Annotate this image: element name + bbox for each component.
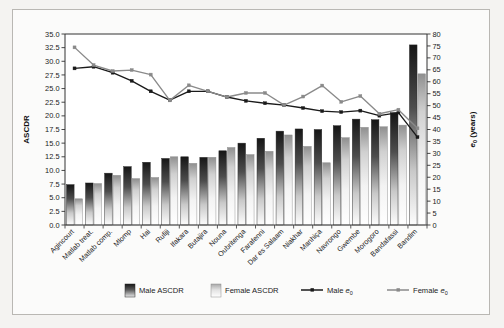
y-tick-label-right: 65	[433, 65, 441, 74]
legend-item: Male ASCDR	[125, 284, 184, 297]
y-tick-label-left: 22.5	[45, 98, 59, 107]
y-tick-label-left: 12.5	[45, 152, 59, 161]
data-point	[168, 99, 171, 102]
data-point	[321, 110, 324, 113]
data-point	[378, 112, 381, 115]
legend-label: Female e0	[413, 286, 448, 296]
data-point	[225, 96, 228, 99]
bar-female-ascdr	[75, 199, 83, 225]
y-tick-label-right: 30	[433, 149, 441, 158]
bar-male-ascdr	[314, 130, 322, 226]
bar-male-ascdr	[105, 173, 113, 225]
bar-female-ascdr	[361, 127, 369, 225]
y-tick-label-right: 0	[433, 221, 437, 230]
x-category-label: Mlomp	[111, 227, 133, 249]
data-point	[245, 91, 248, 94]
bar-male-ascdr	[257, 138, 265, 225]
y-tick-label-right: 70	[433, 53, 441, 62]
bar-male-ascdr	[352, 119, 360, 225]
data-point	[130, 69, 133, 72]
y-tick-label-right: 20	[433, 173, 441, 182]
bar-female-ascdr	[151, 178, 159, 225]
y-tick-label-left: 0.0	[49, 221, 59, 230]
data-point	[416, 127, 419, 130]
y-tick-label-right: 75	[433, 42, 441, 51]
legend-label: Male ASCDR	[139, 286, 184, 295]
bar-female-ascdr	[342, 138, 350, 225]
y-axis-title-left: ASCDR	[22, 115, 31, 144]
bar-male-ascdr	[276, 131, 284, 225]
legend-item: Female ASCDR	[211, 284, 279, 297]
y-tick-label-left: 17.5	[45, 125, 59, 134]
data-point	[302, 95, 305, 98]
bar-male-ascdr	[371, 120, 379, 225]
data-point	[130, 79, 133, 82]
y-tick-label-left: 25.0	[45, 84, 59, 93]
bar-female-ascdr	[285, 135, 293, 225]
bar-female-ascdr	[380, 127, 388, 225]
bar-female-ascdr	[132, 179, 140, 225]
data-point	[359, 109, 362, 112]
data-point	[111, 70, 114, 73]
legend-label: Female ASCDR	[225, 286, 279, 295]
y-tick-label-left: 30.0	[45, 57, 59, 66]
data-point	[149, 73, 152, 76]
data-point	[264, 91, 267, 94]
data-point	[245, 99, 248, 102]
legend-label: Male e0	[327, 286, 353, 296]
y-tick-label-right: 15	[433, 185, 441, 194]
bar-female-ascdr	[170, 157, 178, 225]
y-tick-label-right: 50	[433, 101, 441, 110]
bar-female-ascdr	[208, 157, 216, 225]
bar-male-ascdr	[238, 143, 246, 225]
bar-male-ascdr	[333, 126, 341, 225]
legend-marker	[397, 288, 400, 291]
y-tick-label-left: 7.5	[49, 180, 59, 189]
data-point	[92, 64, 95, 67]
legend-layer: Male ASCDRFemale ASCDRMale e0Female e0	[125, 284, 448, 297]
bar-female-ascdr	[265, 151, 273, 225]
data-point	[149, 90, 152, 93]
bar-female-ascdr	[189, 163, 197, 225]
y-tick-label-right: 45	[433, 113, 441, 122]
y-tick-label-left: 10.0	[45, 166, 59, 175]
bar-female-ascdr	[113, 175, 121, 225]
x-category-label: Butajira	[186, 227, 210, 251]
bar-male-ascdr	[181, 157, 189, 225]
y-tick-label-left: 35.0	[45, 30, 59, 39]
x-category-label: Bandim	[395, 227, 419, 251]
y-tick-label-right: 10	[433, 197, 441, 206]
bar-male-ascdr	[66, 185, 74, 225]
bar-female-ascdr	[246, 155, 254, 225]
bar-female-ascdr	[94, 184, 102, 225]
legend-item: Female e0	[387, 286, 448, 296]
bar-male-ascdr	[143, 162, 151, 225]
y-tick-label-left: 32.5	[45, 43, 59, 52]
data-point	[187, 90, 190, 93]
y-tick-label-right: 60	[433, 77, 441, 86]
chart-canvas: 0.02.55.07.510.012.515.017.520.022.525.0…	[13, 10, 489, 314]
category-labels-layer: AgincourtMatlab treat.Matlab comp.MlompH…	[48, 227, 419, 267]
data-point	[73, 67, 76, 70]
bar-male-ascdr	[162, 158, 170, 225]
data-point	[359, 95, 362, 98]
chart-frame: 0.02.55.07.510.012.515.017.520.022.525.0…	[12, 9, 490, 315]
bar-male-ascdr	[124, 167, 132, 225]
bar-male-ascdr	[200, 157, 208, 225]
legend-swatch-female-ascdr	[211, 284, 221, 297]
data-point	[397, 108, 400, 111]
bar-female-ascdr	[418, 74, 426, 225]
bar-female-ascdr	[304, 146, 312, 225]
y-tick-label-left: 20.0	[45, 111, 59, 120]
y-tick-label-left: 15.0	[45, 139, 59, 148]
y-tick-label-left: 2.5	[49, 207, 59, 216]
data-point	[206, 90, 209, 93]
y-tick-label-right: 40	[433, 125, 441, 134]
data-point	[73, 46, 76, 49]
y-tick-label-left: 27.5	[45, 71, 59, 80]
bar-female-ascdr	[323, 163, 331, 225]
y-tick-label-left: 5.0	[49, 193, 59, 202]
x-category-label: Hai	[138, 227, 152, 241]
data-point	[340, 111, 343, 114]
bar-male-ascdr	[86, 183, 94, 225]
